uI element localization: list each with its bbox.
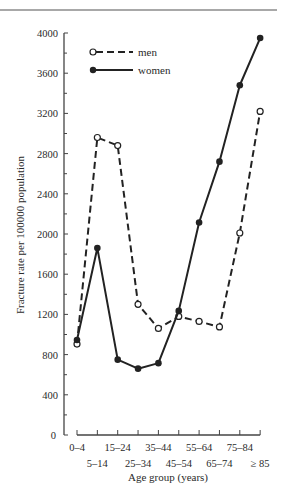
- data-point: [74, 337, 81, 344]
- y-tick-label: 800: [42, 350, 58, 361]
- x-tick-label: 0–4: [69, 442, 86, 453]
- data-point: [155, 360, 162, 367]
- y-tick-label: 2800: [37, 149, 58, 160]
- x-tick-label: 45–54: [166, 458, 193, 469]
- data-point: [196, 318, 202, 324]
- data-point: [257, 108, 263, 114]
- data-point: [135, 301, 141, 307]
- legend-men-label: men: [138, 46, 157, 58]
- legend-women-label: women: [138, 64, 171, 76]
- y-tick-label: 2400: [37, 189, 58, 200]
- y-tick-label: 2000: [37, 229, 58, 240]
- series-line: [77, 111, 260, 344]
- data-point: [216, 324, 222, 330]
- y-axis-title: Fracture rate per 100000 population: [14, 155, 26, 314]
- x-tick-label: 65–74: [206, 458, 233, 469]
- series-men: [74, 108, 263, 347]
- data-point: [114, 356, 121, 363]
- data-point: [237, 230, 243, 236]
- x-axis: 0–45–1415–2425–3435–4445–5455–6465–7475–…: [69, 430, 269, 469]
- x-axis-title: Age group (years): [128, 471, 208, 484]
- y-tick-label: 3600: [37, 68, 58, 79]
- x-tick-label: 25–34: [125, 458, 152, 469]
- x-tick-label: 55–64: [186, 442, 213, 453]
- legend-men-marker-icon: [90, 49, 96, 55]
- data-point: [175, 308, 182, 315]
- y-tick-label: 1600: [37, 269, 58, 280]
- data-point: [94, 245, 101, 252]
- y-axis: 040080012001600200024002800320036004000: [37, 28, 68, 441]
- y-tick-label: 3200: [37, 108, 58, 119]
- x-tick-label: 15–24: [105, 442, 132, 453]
- series-layer: [74, 35, 264, 372]
- x-tick-label: 35–44: [145, 442, 172, 453]
- y-tick-label: 400: [42, 390, 58, 401]
- data-point: [237, 82, 244, 89]
- data-point: [216, 158, 223, 165]
- x-tick-label: 5–14: [87, 458, 109, 469]
- x-tick-label: 75–84: [227, 442, 254, 453]
- y-tick-label: 4000: [37, 28, 58, 39]
- y-tick-label: 0: [51, 430, 56, 441]
- data-point: [94, 135, 100, 141]
- series-line: [77, 38, 260, 369]
- legend: men women: [90, 46, 171, 76]
- legend-women-marker-icon: [90, 67, 96, 73]
- fracture-rate-chart: 040080012001600200024002800320036004000 …: [0, 0, 287, 500]
- data-point: [155, 325, 161, 331]
- data-point: [196, 219, 203, 226]
- y-tick-label: 1200: [37, 309, 58, 320]
- data-point: [115, 143, 121, 149]
- data-point: [135, 365, 142, 372]
- data-point: [257, 35, 264, 42]
- x-tick-label: ≥ 85: [251, 458, 270, 469]
